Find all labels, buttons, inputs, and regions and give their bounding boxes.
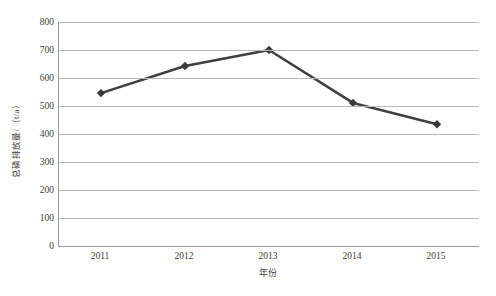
gridline (59, 218, 479, 219)
series-line (101, 50, 437, 124)
y-axis-tick-label: 600 (24, 73, 54, 83)
gridline (59, 106, 479, 107)
y-axis-tick-label: 800 (24, 17, 54, 27)
x-axis-tick-label: 2014 (310, 250, 394, 264)
plot-area (58, 22, 479, 247)
gridline (59, 50, 479, 51)
gridline (59, 190, 479, 191)
x-axis-tick-label: 2015 (394, 250, 478, 264)
gridline (59, 78, 479, 79)
x-axis-title: 年份 (58, 266, 478, 279)
y-axis-tick-label: 700 (24, 45, 54, 55)
y-axis-tick-label: 0 (24, 241, 54, 251)
gridline (59, 134, 479, 135)
data-point-marker (97, 89, 105, 97)
x-axis-tick-labels: 20112012201320142015 (58, 250, 478, 264)
x-axis-tick-label: 2013 (226, 250, 310, 264)
gridline (59, 162, 479, 163)
y-axis-tick-labels: 0100200300400500600700800 (20, 0, 54, 296)
y-axis-tick-label: 500 (24, 101, 54, 111)
y-axis-tick-label: 200 (24, 185, 54, 195)
y-axis-tick-label: 100 (24, 213, 54, 223)
data-point-marker (433, 120, 441, 128)
line-chart-figure: 总磷排放量/（t/a） 0100200300400500600700800 20… (0, 0, 496, 296)
x-axis-tick-label: 2011 (58, 250, 142, 264)
x-axis-tick-label: 2012 (142, 250, 226, 264)
y-axis-tick-label: 300 (24, 157, 54, 167)
gridline (59, 22, 479, 23)
y-axis-tick-label: 400 (24, 129, 54, 139)
data-point-marker (181, 62, 189, 70)
